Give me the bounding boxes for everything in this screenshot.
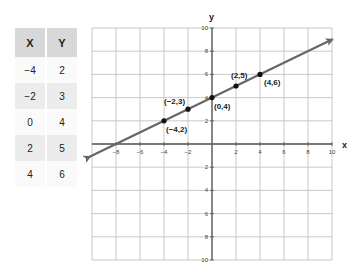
point-label: (0,4)	[214, 102, 231, 111]
data-points: (−4,2)(−2,3)(0,4)(2,5)(4,6)	[161, 71, 280, 134]
point-label: (−4,2)	[166, 125, 187, 134]
data-point	[161, 118, 166, 123]
point-label: (−2,3)	[164, 97, 185, 106]
data-point	[209, 95, 214, 100]
x-tick-label: −8	[113, 149, 121, 155]
x-tick-label: 4	[258, 149, 262, 155]
x-tick-label: 8	[306, 149, 310, 155]
axes	[92, 28, 332, 260]
x-tick-label: −6	[137, 149, 145, 155]
x-tick-label: 2	[234, 149, 238, 155]
x-tick-label: 6	[282, 149, 286, 155]
coordinate-plane: −8−6−4−2246810108642246810 x y (−4,2)(−2…	[0, 0, 359, 273]
data-point	[185, 107, 190, 112]
point-label: (2,5)	[231, 71, 248, 80]
point-label: (4,6)	[264, 78, 281, 87]
x-axis-label: x	[342, 140, 347, 150]
x-tick-label: 10	[329, 149, 336, 155]
data-point	[233, 83, 238, 88]
y-axis-label: y	[209, 12, 214, 22]
x-tick-label: −4	[161, 149, 169, 155]
y-tick-label: 10	[201, 257, 208, 263]
y-tick-label: 10	[201, 25, 208, 31]
x-tick-label: −2	[185, 149, 193, 155]
data-point	[257, 72, 262, 77]
